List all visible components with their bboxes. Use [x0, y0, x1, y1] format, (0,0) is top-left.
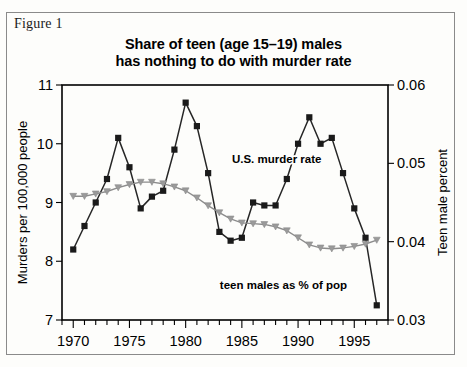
data-point [216, 210, 223, 216]
x-axis-tick-label: 1975 [113, 333, 145, 349]
x-axis-tick-label: 1995 [338, 333, 370, 349]
data-point [205, 170, 211, 176]
data-point [239, 235, 245, 241]
y-axis-tick-label: 10 [37, 136, 53, 152]
y2-axis-tick-label: 0.04 [397, 234, 425, 250]
data-point [362, 235, 368, 241]
figure-page: Figure 1 Share of teen (age 15–19) males… [0, 0, 467, 367]
data-point [70, 246, 76, 252]
y2-axis-tick-label: 0.05 [397, 155, 425, 171]
data-point [93, 199, 99, 205]
chart-plot-area: 78910110.030.040.050.0619701975198019851… [0, 0, 467, 367]
data-point [104, 176, 110, 182]
data-point [272, 202, 278, 208]
y-axis-tick-label: 7 [45, 312, 53, 328]
series-label-1: teen males as % of pop [220, 279, 347, 291]
data-point [306, 114, 312, 120]
y-axis-tick-label: 8 [45, 253, 53, 269]
data-point [115, 135, 121, 141]
data-point [261, 202, 267, 208]
data-point [250, 199, 256, 205]
x-axis-tick-label: 1990 [282, 333, 314, 349]
y2-axis-tick-label: 0.03 [397, 312, 425, 328]
y2-axis-title: Teen male percent [435, 149, 450, 256]
data-point [160, 188, 166, 194]
x-axis-tick-label: 1985 [226, 333, 258, 349]
data-point [351, 205, 357, 211]
series-line-0 [73, 103, 377, 306]
data-point [171, 147, 177, 153]
x-axis-tick-label: 1970 [57, 333, 89, 349]
line-chart: 78910110.030.040.050.0619701975198019851… [0, 0, 467, 367]
data-point [329, 135, 335, 141]
data-point [216, 229, 222, 235]
data-point [138, 205, 144, 211]
series-label-0: U.S. murder rate [232, 153, 321, 165]
data-point [183, 100, 189, 106]
data-point [295, 141, 301, 147]
data-point [81, 223, 87, 229]
x-axis-tick-label: 1980 [170, 333, 202, 349]
chart-axes: 78910110.030.040.050.0619701975198019851… [15, 77, 450, 349]
y-axis-tick-label: 9 [45, 195, 53, 211]
data-point [149, 194, 155, 200]
chart-series [70, 100, 380, 309]
data-point [340, 170, 346, 176]
data-point [194, 123, 200, 129]
data-point [126, 164, 132, 170]
data-point [317, 141, 323, 147]
data-point [374, 302, 380, 308]
data-point [284, 176, 290, 182]
series-line-1 [73, 182, 377, 249]
data-point [228, 238, 234, 244]
y-axis-title: Murders per 100,000 people [15, 121, 30, 284]
y-axis-tick-label: 11 [38, 77, 53, 93]
y2-axis-tick-label: 0.06 [397, 77, 425, 93]
